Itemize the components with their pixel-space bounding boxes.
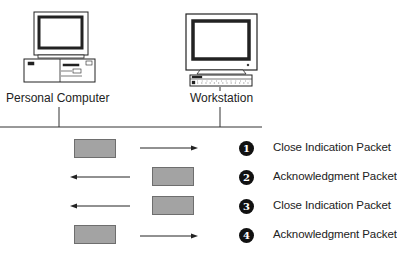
step-label: Close Indication Packet bbox=[273, 141, 391, 153]
arrow-left-icon bbox=[70, 175, 130, 180]
workstation-label: Workstation bbox=[190, 91, 253, 105]
step-label: Close Indication Packet bbox=[273, 199, 391, 211]
step-label: Acknowledgment Packet bbox=[273, 170, 397, 182]
packet-box bbox=[74, 139, 116, 158]
step-label: Acknowledgment Packet bbox=[273, 228, 397, 240]
arrow-left-icon bbox=[70, 204, 130, 209]
step-number-badge: 2 bbox=[239, 170, 254, 185]
arrow-right-icon bbox=[140, 234, 198, 239]
packet-box bbox=[152, 196, 194, 215]
packet-box bbox=[152, 167, 194, 186]
workstation-icon bbox=[186, 14, 257, 86]
step-number-badge: 3 bbox=[239, 199, 254, 214]
arrow-right-icon bbox=[140, 146, 198, 151]
step-number-badge: 4 bbox=[239, 228, 254, 243]
desktop-pc-icon bbox=[24, 12, 95, 82]
pc-label: Personal Computer bbox=[6, 91, 109, 105]
step-number-badge: 1 bbox=[239, 141, 254, 156]
packet-box bbox=[74, 225, 116, 244]
